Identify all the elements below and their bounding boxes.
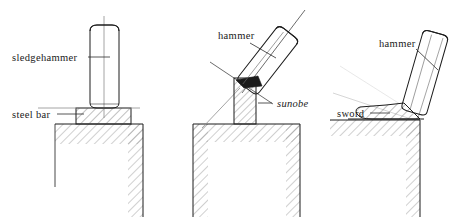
hammer-label-3: hammer [379, 38, 416, 49]
sunobe-label: sunobe [277, 98, 309, 109]
hammer-label-2: hammer [218, 30, 255, 41]
sword-label: sword [337, 108, 365, 119]
forging-diagram-figure: sledgehammer steel bar [0, 0, 469, 217]
steel-bar-label: steel bar [12, 109, 51, 120]
sledgehammer-label: sledgehammer [12, 52, 78, 63]
steel-bar-part [76, 108, 131, 124]
diagram-canvas: sledgehammer steel bar [0, 0, 469, 217]
